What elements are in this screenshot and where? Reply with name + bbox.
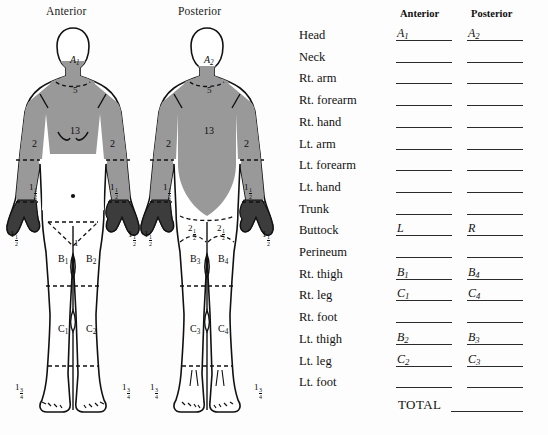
anterior-lt-foot-label: 134 xyxy=(122,383,130,400)
posterior-trunk-label: 13 xyxy=(204,126,214,136)
posterior-input-blank[interactable] xyxy=(467,83,523,84)
posterior-input-blank[interactable] xyxy=(467,214,523,215)
column-header-anterior: Anterior xyxy=(400,8,439,19)
row-label-rt-forearm: Rt. forearm xyxy=(299,93,357,108)
table-row: HeadA1A2 xyxy=(296,26,548,48)
row-label-rt-hand: Rt. hand xyxy=(299,115,341,130)
anterior-input-blank[interactable] xyxy=(396,322,452,323)
posterior-input-blank[interactable] xyxy=(467,322,523,323)
table-row: Lt. hand xyxy=(296,178,548,200)
total-input-blank[interactable] xyxy=(451,411,523,412)
posterior-cell-value: C4 xyxy=(468,286,480,301)
table-row: Rt. arm xyxy=(296,69,548,91)
table-row: Perineum xyxy=(296,243,548,265)
posterior-input-blank[interactable] xyxy=(467,387,523,388)
anterior-input-blank[interactable] xyxy=(396,192,452,193)
anterior-lt-forearm-label: 112 xyxy=(110,183,118,200)
row-label-lt-leg: Lt. leg xyxy=(299,354,332,369)
posterior-input-blank[interactable] xyxy=(467,257,523,258)
table-row: Lt. forearm xyxy=(296,156,548,178)
anterior-neck-label: 5 xyxy=(73,86,78,95)
table-row: Rt. hand xyxy=(296,113,548,135)
anterior-rt-thigh-label: B1 xyxy=(58,254,68,266)
posterior-input-blank[interactable] xyxy=(467,170,523,171)
anterior-rt-forearm-label: 112 xyxy=(29,183,37,200)
posterior-rt-buttock-label: 212 xyxy=(188,224,196,241)
row-label-lt-thigh: Lt. thigh xyxy=(299,332,342,347)
anterior-input-blank[interactable] xyxy=(396,170,452,171)
anterior-input-blank[interactable] xyxy=(396,149,452,150)
anterior-input-blank[interactable] xyxy=(396,127,452,128)
posterior-input-blank[interactable] xyxy=(467,235,523,236)
row-label-buttock: Buttock xyxy=(299,223,339,238)
row-label-trunk: Trunk xyxy=(299,202,329,217)
anterior-navel xyxy=(71,194,75,198)
anterior-rt-arm-label: 2 xyxy=(32,139,37,149)
anterior-trunk-label: 13 xyxy=(70,126,80,136)
posterior-input-blank[interactable] xyxy=(467,149,523,150)
anterior-cell-value: B1 xyxy=(397,265,409,280)
posterior-input-blank[interactable] xyxy=(467,105,523,106)
anterior-rt-leg-label: C1 xyxy=(58,324,68,336)
anterior-input-blank[interactable] xyxy=(396,62,452,63)
body-diagram-panel: Anterior Posterior xyxy=(0,0,290,435)
posterior-lt-foot-label: 134 xyxy=(254,383,262,400)
anterior-input-blank[interactable] xyxy=(396,214,452,215)
posterior-cell-value: A2 xyxy=(468,26,480,41)
row-label-head: Head xyxy=(299,28,325,43)
posterior-lt-buttock-label: 212 xyxy=(217,224,225,241)
anterior-lt-leg-label: C2 xyxy=(86,324,96,336)
anterior-lt-thigh-label: B2 xyxy=(86,254,96,266)
row-label-perineum: Perineum xyxy=(299,245,347,260)
table-row: Rt. legC1C4 xyxy=(296,286,548,308)
posterior-neck-label: 5 xyxy=(207,86,212,95)
table-row: Neck xyxy=(296,48,548,70)
table-row: Rt. foot xyxy=(296,308,548,330)
anterior-input-blank[interactable] xyxy=(396,257,452,258)
table-row: Lt. arm xyxy=(296,135,548,157)
anterior-head-label: A1 xyxy=(70,55,80,67)
row-label-lt-forearm: Lt. forearm xyxy=(299,158,356,173)
burn-assessment-table: Anterior Posterior HeadA1A2NeckRt. armRt… xyxy=(296,0,548,435)
anterior-input-blank[interactable] xyxy=(396,235,452,236)
table-row: Lt. legC2C3 xyxy=(296,352,548,374)
posterior-rt-leg-label: C3 xyxy=(190,324,200,336)
table-row: Rt. forearm xyxy=(296,91,548,113)
row-label-rt-foot: Rt. foot xyxy=(299,310,337,325)
posterior-rt-hand-label: 112 xyxy=(144,230,152,247)
posterior-input-blank[interactable] xyxy=(467,192,523,193)
table-row: ButtockLR xyxy=(296,221,548,243)
posterior-lt-leg-label: C4 xyxy=(218,324,228,336)
row-label-lt-arm: Lt. arm xyxy=(299,137,336,152)
table-row: Lt. foot xyxy=(296,373,548,395)
anterior-input-blank[interactable] xyxy=(396,387,452,388)
row-label-lt-foot: Lt. foot xyxy=(299,375,337,390)
table-row: Trunk xyxy=(296,200,548,222)
anterior-rt-foot-label: 134 xyxy=(15,383,23,400)
anterior-lt-arm-label: 2 xyxy=(110,139,115,149)
row-label-lt-hand: Lt. hand xyxy=(299,180,341,195)
anterior-rt-hand-label: 112 xyxy=(10,230,18,247)
anterior-cell-value: L xyxy=(397,221,404,236)
anterior-input-blank[interactable] xyxy=(396,105,452,106)
anterior-cell-value: C2 xyxy=(397,352,409,367)
posterior-head-label: A2 xyxy=(204,55,214,67)
table-row: Lt. thighB2B3 xyxy=(296,330,548,352)
row-label-rt-leg: Rt. leg xyxy=(299,288,332,303)
posterior-input-blank[interactable] xyxy=(467,127,523,128)
row-label-rt-arm: Rt. arm xyxy=(299,71,337,86)
anterior-cell-value: B2 xyxy=(397,330,409,345)
posterior-input-blank[interactable] xyxy=(467,62,523,63)
posterior-lt-thigh-label: B4 xyxy=(218,254,228,266)
posterior-cell-value: B4 xyxy=(468,265,480,280)
row-label-rt-thigh: Rt. thigh xyxy=(299,267,343,282)
posterior-rt-forearm-label: 112 xyxy=(163,183,171,200)
anterior-perineum-label: 1 xyxy=(74,239,79,248)
posterior-rt-thigh-label: B3 xyxy=(190,254,200,266)
posterior-cell-value: R xyxy=(468,221,475,236)
posterior-cell-value: C3 xyxy=(468,352,480,367)
posterior-lt-arm-label: 2 xyxy=(244,139,249,149)
anterior-input-blank[interactable] xyxy=(396,83,452,84)
column-header-posterior: Posterior xyxy=(471,8,512,19)
row-label-neck: Neck xyxy=(299,50,325,65)
